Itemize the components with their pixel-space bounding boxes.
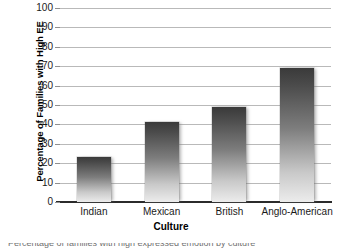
y-axis-tick-label: 20 bbox=[42, 158, 53, 168]
y-axis-tick-mark bbox=[55, 144, 60, 145]
bar bbox=[77, 157, 111, 202]
gridline bbox=[60, 27, 331, 28]
clipped-caption: Percentage of families with high express… bbox=[8, 243, 334, 251]
y-axis-tick-label: 80 bbox=[42, 42, 53, 52]
y-axis-tick-label: 60 bbox=[42, 81, 53, 91]
bar bbox=[280, 68, 314, 202]
x-axis-tick-label: Anglo-American bbox=[237, 206, 342, 217]
bar bbox=[212, 107, 246, 202]
y-axis-tick-label: 10 bbox=[42, 178, 53, 188]
y-axis-tick-label: 70 bbox=[42, 61, 53, 71]
y-axis-tick-mark bbox=[55, 86, 60, 87]
y-axis-tick-label: 50 bbox=[42, 100, 53, 110]
gridline bbox=[60, 47, 331, 48]
y-axis-tick-mark bbox=[55, 27, 60, 28]
y-axis-tick-label: 90 bbox=[42, 22, 53, 32]
y-axis-tick-label: 100 bbox=[36, 3, 53, 13]
y-axis-tick-mark bbox=[55, 183, 60, 184]
y-axis-tick-mark bbox=[55, 8, 60, 9]
y-axis-tick-label: 30 bbox=[42, 139, 53, 149]
bar-chart-figure: Percentage of Families with High EE 0102… bbox=[0, 0, 342, 251]
y-axis-tick-mark bbox=[55, 47, 60, 48]
y-axis-tick-mark bbox=[55, 202, 60, 203]
x-axis-title: Culture bbox=[0, 221, 342, 232]
y-axis-tick-label: 40 bbox=[42, 119, 53, 129]
bar bbox=[145, 122, 179, 202]
y-axis-tick-mark bbox=[55, 163, 60, 164]
gridline bbox=[60, 8, 331, 9]
plot-area: 0102030405060708090100 bbox=[60, 8, 331, 202]
y-axis-tick-mark bbox=[55, 66, 60, 67]
y-axis-tick-mark bbox=[55, 124, 60, 125]
gridline bbox=[60, 66, 331, 67]
clipped-caption-text: Percentage of families with high express… bbox=[8, 243, 255, 249]
y-axis-tick-mark bbox=[55, 105, 60, 106]
